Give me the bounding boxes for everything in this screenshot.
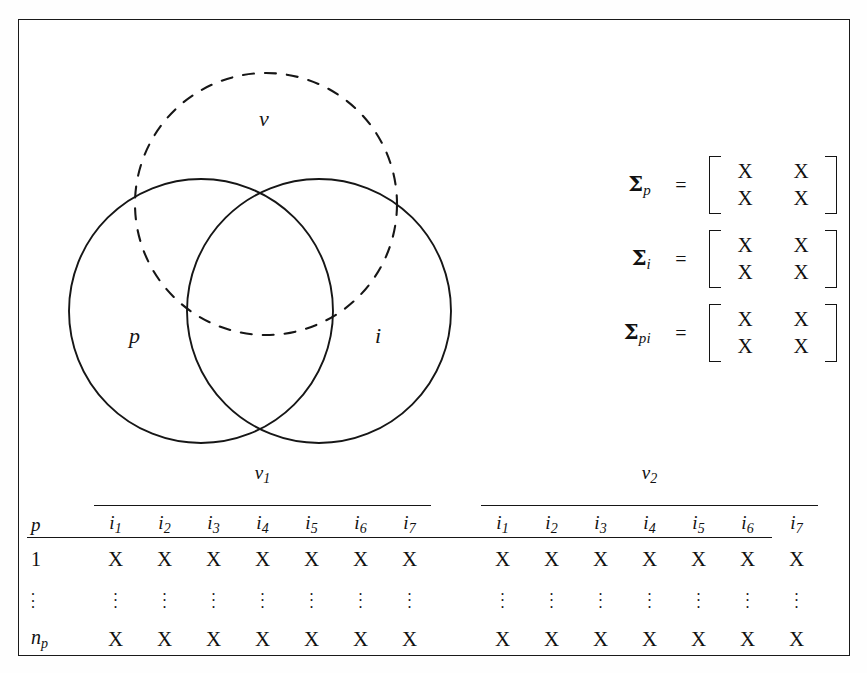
matrix-grid: X X X X	[725, 232, 821, 286]
table-cell: X	[189, 619, 238, 659]
matrix-equals-sign: =	[653, 174, 709, 197]
venn-label-v: v	[259, 106, 269, 132]
table-cell: X	[527, 539, 576, 579]
column-header-v1-i6: i6	[336, 506, 385, 536]
table-group-rule-row	[27, 486, 821, 506]
sigma-subscript: i	[647, 256, 651, 272]
matrix-sigma-pi: Σpi = X X X X	[567, 296, 867, 370]
table-cell-ellipsis: ...	[723, 579, 772, 619]
matrix-grid: X X X X	[725, 158, 821, 212]
table-cell: X	[238, 539, 287, 579]
column-header-v1-i7: i7	[385, 506, 434, 536]
table-cell: X	[385, 539, 434, 579]
figure-border: v p i Σp = X X X X Σi =	[18, 19, 850, 656]
data-table: v1 v2 p i1 i2 i3 i4	[27, 460, 821, 659]
column-header-v2-i2: i2	[527, 506, 576, 536]
table-cell-ellipsis: ...	[189, 579, 238, 619]
group-rule-v2	[478, 486, 821, 506]
matrix-cell: X	[725, 185, 765, 212]
figure-panel: v p i Σp = X X X X Σi =	[0, 0, 867, 673]
table-cell: X	[140, 619, 189, 659]
row-header-label-text: p	[31, 514, 41, 535]
matrix-equals-sign: =	[653, 248, 709, 271]
vertical-dots-icon: ...	[310, 585, 314, 607]
matrix-cell: X	[781, 158, 821, 185]
table-header-row: p i1 i2 i3 i4 i5 i6 i7 i1 i2 i3 i4 i5 i6…	[27, 506, 821, 536]
column-header-v2-i3: i3	[576, 506, 625, 536]
column-header-v1-i1: i1	[91, 506, 140, 536]
matrix-cell: X	[781, 232, 821, 259]
table-cell: X	[723, 619, 772, 659]
table-cell-ellipsis: ...	[91, 579, 140, 619]
table-row-ellipsis: ... ... ... ... ... ... ... ... ... ... …	[27, 579, 821, 619]
row-label: 1	[27, 539, 91, 579]
venn-svg	[19, 20, 489, 465]
group-name-gap	[434, 460, 478, 486]
column-header-v2-i6: i6	[723, 506, 772, 536]
venn-label-p: p	[129, 323, 140, 349]
table-cell-ellipsis: ...	[478, 579, 527, 619]
venn-label-i: i	[375, 323, 381, 349]
table-cell: X	[723, 539, 772, 579]
table-cell-gap	[434, 619, 478, 659]
matrix-cell: X	[725, 306, 765, 333]
group-name-sub: 2	[650, 470, 657, 485]
matrix-cell: X	[725, 232, 765, 259]
column-header-v1-i4: i4	[238, 506, 287, 536]
table-cell: X	[140, 539, 189, 579]
matrix-cell: X	[781, 185, 821, 212]
vertical-dots-icon: ...	[501, 585, 505, 607]
sigma-subscript: pi	[639, 330, 651, 346]
matrix-label-sigma-i: Σi	[567, 245, 653, 273]
table-cell: X	[772, 539, 821, 579]
group-name-sub: 1	[263, 470, 270, 485]
table-cell-ellipsis: ...	[674, 579, 723, 619]
vertical-dots-icon: ...	[212, 585, 216, 607]
matrix-brackets: X X X X	[709, 156, 837, 214]
vertical-dots-icon: ...	[408, 585, 412, 607]
vertical-dots-icon: ...	[599, 585, 603, 607]
table-cell: X	[91, 619, 140, 659]
venn-diagram: v p i	[19, 20, 489, 465]
column-header-v2-i5: i5	[674, 506, 723, 536]
vertical-dots-icon: ...	[550, 585, 554, 607]
table-cell-gap	[434, 539, 478, 579]
matrix-cell: X	[781, 333, 821, 360]
venn-circle-p	[69, 179, 333, 443]
table-cell: X	[576, 539, 625, 579]
table-cell: X	[287, 619, 336, 659]
data-table-area: v1 v2 p i1 i2 i3 i4	[19, 460, 851, 656]
row-header-label: p	[27, 506, 91, 536]
table-cell: X	[238, 619, 287, 659]
vertical-dots-icon: ...	[261, 585, 265, 607]
group-name-spacer	[27, 460, 91, 486]
column-header-v1-i3: i3	[189, 506, 238, 536]
matrix-cell: X	[725, 158, 765, 185]
vertical-dots-icon: ...	[795, 585, 799, 607]
matrix-cell: X	[725, 333, 765, 360]
group-name-v1: v1	[91, 460, 434, 486]
table-cell-ellipsis: ...	[336, 579, 385, 619]
matrix-brackets: X X X X	[709, 304, 837, 362]
vertical-dots-icon: ...	[163, 585, 167, 607]
sigma-glyph: Σ	[632, 245, 647, 270]
table-cell-ellipsis: ...	[625, 579, 674, 619]
matrix-label-sigma-pi: Σpi	[567, 319, 653, 347]
table-cell: X	[772, 619, 821, 659]
table-cell: X	[527, 619, 576, 659]
vertical-dots-icon: ...	[31, 585, 35, 607]
table-cell: X	[625, 539, 674, 579]
column-header-v2-i4: i4	[625, 506, 674, 536]
table-cell: X	[625, 619, 674, 659]
vertical-dots-icon: ...	[648, 585, 652, 607]
vertical-dots-icon: ...	[114, 585, 118, 607]
table-group-name-row: v1 v2	[27, 460, 821, 486]
venn-circle-i	[187, 179, 451, 443]
table-cell-gap	[434, 579, 478, 619]
matrix-label-sigma-p: Σp	[567, 171, 653, 199]
matrix-list: Σp = X X X X Σi = X X	[567, 148, 867, 370]
vertical-dots-icon: ...	[697, 585, 701, 607]
table-cell: X	[385, 619, 434, 659]
table-cell: X	[576, 619, 625, 659]
table-cell: X	[336, 619, 385, 659]
